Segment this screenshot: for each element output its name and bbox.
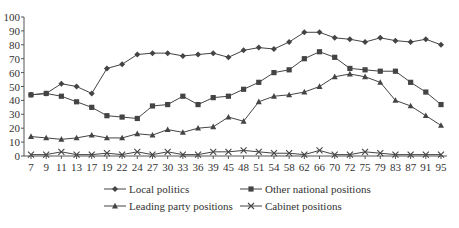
data-point-other-national-positions xyxy=(362,67,367,72)
series-local-politics xyxy=(28,29,444,98)
x-tick-label: 7 xyxy=(28,161,34,173)
x-tick-label: 87 xyxy=(405,161,417,173)
series-group xyxy=(28,29,444,157)
data-point-leading-party-positions xyxy=(438,122,444,128)
data-point-leading-party-positions xyxy=(134,131,140,137)
legend-item-leading-party-positions: Leading party positions xyxy=(104,200,233,212)
data-point-leading-party-positions xyxy=(423,112,429,118)
data-point-local-politics xyxy=(332,35,338,41)
x-tick-label: 62 xyxy=(299,161,310,173)
data-point-other-national-positions xyxy=(423,89,428,94)
legend-label: Cabinet positions xyxy=(265,200,342,212)
data-point-other-national-positions xyxy=(195,102,200,107)
data-point-other-national-positions xyxy=(271,70,276,75)
x-tick-label: 54 xyxy=(268,161,280,173)
x-tick-label: 48 xyxy=(238,161,250,173)
data-point-other-national-positions xyxy=(74,99,79,104)
data-point-other-national-positions xyxy=(44,91,49,96)
y-tick-label: 20 xyxy=(9,122,21,134)
data-point-local-politics xyxy=(301,29,307,35)
y-tick-label: 30 xyxy=(9,108,21,120)
x-tick-label: 27 xyxy=(147,161,159,173)
data-point-local-politics xyxy=(392,38,398,44)
data-point-local-politics xyxy=(119,61,125,67)
x-tick-label: 11 xyxy=(56,161,67,173)
y-tick-label: 40 xyxy=(9,94,21,106)
data-point-other-national-positions xyxy=(302,56,307,61)
y-tick-label: 50 xyxy=(9,81,21,93)
x-tick-label: 17 xyxy=(86,161,98,173)
data-point-local-politics xyxy=(180,53,186,59)
data-point-cabinet-positions xyxy=(317,147,323,153)
data-point-local-politics xyxy=(362,39,368,45)
x-tick-label: 75 xyxy=(360,161,372,173)
data-point-local-politics xyxy=(195,52,201,58)
data-point-other-national-positions xyxy=(226,94,231,99)
data-point-other-national-positions xyxy=(438,102,443,107)
data-point-leading-party-positions xyxy=(317,83,323,89)
data-point-other-national-positions xyxy=(393,69,398,74)
data-point-leading-party-positions xyxy=(28,133,34,139)
y-tick-label: 80 xyxy=(9,39,21,51)
data-point-local-politics xyxy=(134,52,140,58)
x-tick-label: 45 xyxy=(223,161,235,173)
y-tick-label: 90 xyxy=(9,25,21,37)
x-tick-label: 51 xyxy=(253,161,264,173)
legend-item-local-politics: Local politics xyxy=(104,183,189,195)
data-point-local-politics xyxy=(423,36,429,42)
line-chart: 0102030405060708090100 79111317192224273… xyxy=(0,0,459,228)
data-point-other-national-positions xyxy=(317,49,322,54)
legend-item-cabinet-positions: Cabinet positions xyxy=(240,200,342,212)
x-tick-label: 36 xyxy=(193,161,205,173)
legend-label: Leading party positions xyxy=(129,200,233,212)
data-point-local-politics xyxy=(347,36,353,42)
series-other-national-positions xyxy=(28,49,443,121)
data-point-local-politics xyxy=(225,54,231,60)
x-tick-label: 22 xyxy=(117,161,128,173)
data-point-local-politics xyxy=(210,50,216,56)
legend: Local politicsOther national positionsLe… xyxy=(104,183,371,212)
data-point-other-national-positions xyxy=(211,95,216,100)
data-point-leading-party-positions xyxy=(165,126,171,132)
data-point-local-politics xyxy=(149,50,155,56)
data-point-other-national-positions xyxy=(59,94,64,99)
data-point-local-politics xyxy=(271,46,277,52)
data-point-leading-party-positions xyxy=(210,124,216,130)
x-tick-label: 72 xyxy=(344,161,355,173)
x-tick-label: 79 xyxy=(375,161,387,173)
y-axis-ticks: 0102030405060708090100 xyxy=(4,11,25,162)
data-point-other-national-positions xyxy=(347,66,352,71)
data-point-leading-party-positions xyxy=(89,132,95,138)
legend-marker-local-politics xyxy=(112,186,118,192)
data-point-local-politics xyxy=(58,81,64,87)
data-point-local-politics xyxy=(317,29,323,35)
y-tick-label: 60 xyxy=(9,67,21,79)
x-tick-label: 19 xyxy=(101,161,113,173)
data-point-other-national-positions xyxy=(135,116,140,121)
x-tick-label: 91 xyxy=(420,161,431,173)
legend-item-other-national-positions: Other national positions xyxy=(240,183,371,195)
x-tick-label: 39 xyxy=(208,161,220,173)
data-point-local-politics xyxy=(256,45,262,51)
x-tick-label: 30 xyxy=(162,161,174,173)
legend-label: Local politics xyxy=(129,183,189,195)
data-point-leading-party-positions xyxy=(225,114,231,120)
x-tick-label: 9 xyxy=(43,161,49,173)
data-point-other-national-positions xyxy=(287,67,292,72)
data-point-other-national-positions xyxy=(120,114,125,119)
data-point-other-national-positions xyxy=(104,113,109,118)
data-point-local-politics xyxy=(408,39,414,45)
data-point-local-politics xyxy=(241,47,247,53)
data-point-other-national-positions xyxy=(241,87,246,92)
x-tick-label: 58 xyxy=(284,161,296,173)
x-axis-ticks: 7911131719222427303336394548515458626670… xyxy=(28,156,447,173)
y-tick-label: 0 xyxy=(15,150,21,162)
data-point-other-national-positions xyxy=(332,55,337,60)
data-point-local-politics xyxy=(165,50,171,56)
data-point-local-politics xyxy=(89,90,95,96)
data-point-other-national-positions xyxy=(165,102,170,107)
data-point-other-national-positions xyxy=(256,80,261,85)
x-tick-label: 66 xyxy=(314,161,326,173)
data-point-leading-party-positions xyxy=(347,71,353,77)
x-tick-label: 33 xyxy=(177,161,189,173)
